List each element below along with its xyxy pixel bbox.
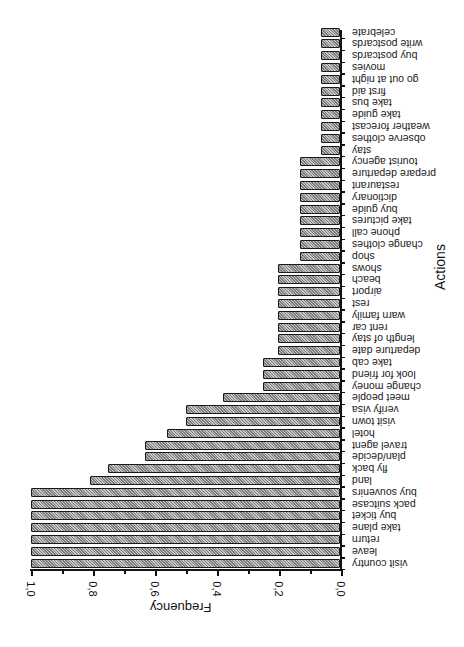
x-axis-title: Frequency — [150, 600, 211, 615]
bar — [278, 299, 340, 308]
bar — [31, 535, 340, 544]
category-tick — [341, 321, 345, 323]
y-axis-title: Actions — [432, 244, 448, 290]
category-label: buy ticket — [352, 510, 396, 521]
category-label: tourist agency — [352, 156, 417, 167]
category-label: look for friend — [352, 369, 416, 380]
category-tick — [341, 250, 345, 252]
category-label: shop — [352, 251, 375, 262]
bar — [300, 228, 340, 237]
category-tick — [341, 85, 345, 87]
category-tick — [341, 274, 345, 276]
category-label: verify visa — [352, 404, 399, 415]
category-label: airport — [352, 286, 382, 297]
category-label: change clothes — [352, 239, 423, 250]
bar — [223, 393, 340, 402]
bar — [278, 311, 340, 320]
category-tick — [341, 168, 345, 170]
x-axis-tick — [310, 570, 312, 574]
category-tick — [341, 333, 345, 335]
category-tick — [341, 215, 345, 217]
bar — [278, 334, 340, 343]
bar — [321, 75, 340, 84]
category-tick — [341, 227, 345, 229]
bar — [321, 98, 340, 107]
category-tick — [341, 498, 345, 500]
bar — [321, 28, 340, 37]
category-label: change money — [352, 381, 421, 392]
category-label: first aid — [352, 86, 386, 97]
x-axis-tick-label: 1,0 — [25, 574, 37, 604]
bar — [167, 429, 340, 438]
bar — [90, 476, 340, 485]
bar — [263, 382, 340, 391]
category-tick — [341, 345, 345, 347]
category-tick — [341, 298, 345, 300]
category-label: buy souvenirs — [352, 487, 417, 498]
bar — [31, 547, 340, 556]
category-tick — [341, 203, 345, 205]
bar — [186, 417, 341, 426]
category-label: departure date — [352, 345, 420, 356]
x-axis-tick-label: 0,2 — [273, 574, 285, 604]
bar — [31, 500, 340, 509]
category-tick — [341, 416, 345, 418]
bar — [108, 464, 340, 473]
x-axis-tick-label: 0,8 — [87, 574, 99, 604]
category-tick — [341, 239, 345, 241]
category-label: go out at night — [352, 74, 419, 85]
category-label: travel agent — [352, 440, 407, 451]
bar — [321, 87, 340, 96]
bar — [321, 110, 340, 119]
category-label: visit country — [352, 558, 407, 569]
category-label: land — [352, 475, 372, 486]
category-tick — [341, 475, 345, 477]
category-label: rent car — [352, 322, 388, 333]
category-tick — [341, 486, 345, 488]
category-tick — [341, 144, 345, 146]
bar — [300, 169, 340, 178]
bar — [321, 51, 340, 60]
category-tick — [341, 545, 345, 547]
category-tick — [341, 463, 345, 465]
category-label: meet people — [352, 392, 410, 403]
bar — [278, 264, 340, 273]
category-label: take pictures — [352, 215, 412, 226]
category-label: warn family — [352, 310, 405, 321]
bar — [31, 511, 340, 520]
bar-chart: visit countryleavereturntake planebuy ti… — [0, 0, 464, 647]
category-tick — [341, 357, 345, 359]
category-label: leave — [352, 546, 377, 557]
category-label: weather forecast — [352, 121, 430, 132]
category-tick — [341, 309, 345, 311]
y-axis-line — [340, 30, 342, 570]
category-tick — [341, 50, 345, 52]
bar — [321, 39, 340, 48]
bar — [300, 157, 340, 166]
bar — [31, 559, 340, 568]
category-tick — [341, 451, 345, 453]
category-tick — [341, 404, 345, 406]
bar — [321, 146, 340, 155]
category-tick — [341, 109, 345, 111]
bar — [278, 287, 340, 296]
category-label: buy postcards — [352, 50, 417, 61]
category-tick — [341, 510, 345, 512]
category-label: return — [352, 534, 379, 545]
bar — [278, 275, 340, 284]
category-label: phone call — [352, 227, 400, 238]
category-tick — [341, 73, 345, 75]
x-axis-tick-label: 0,4 — [211, 574, 223, 604]
category-tick — [341, 180, 345, 182]
category-tick — [341, 191, 345, 193]
category-label: observe clothes — [352, 133, 426, 144]
bar — [31, 488, 340, 497]
bar — [321, 63, 340, 72]
bar — [145, 441, 340, 450]
category-label: hotel — [352, 428, 375, 439]
category-tick — [341, 97, 345, 99]
category-label: pack suitcase — [352, 499, 416, 510]
bar — [278, 346, 340, 355]
category-tick — [341, 62, 345, 64]
category-label: plan/decide — [352, 451, 406, 462]
